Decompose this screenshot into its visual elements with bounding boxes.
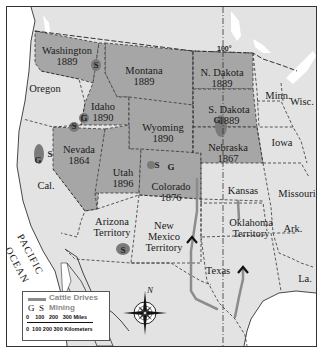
silver-mine-icon: S [120, 245, 125, 255]
map-frame: 100° Washington1889 Oregon Montana1889 I… [6, 6, 317, 347]
map-legend: Cattle Drives G S Mining 0 100 200 300 M… [22, 291, 110, 341]
legend-mining-symbols: G S [28, 303, 44, 313]
state-label-nevada: Nevada1864 [63, 144, 95, 166]
state-label-nebraska: Nebraska1867 [208, 142, 248, 164]
state-label-idaho: Idaho1890 [91, 101, 115, 123]
state-label-new-mexico: NewMexicoTerritory [145, 220, 182, 253]
meridian-label: 100° [217, 45, 231, 52]
state-label-ark: Ark. [284, 223, 303, 234]
state-label-washington: Washington1889 [42, 45, 92, 67]
gold-mine-icon: G [80, 113, 87, 123]
silver-mine-icon: S [47, 149, 52, 159]
state-label-colorado: Colorado1876 [151, 181, 190, 203]
compass-north-label: N [147, 285, 153, 295]
scale-bar [27, 322, 93, 323]
state-label-cal: Cal. [37, 180, 54, 191]
scale-miles: 0 100 200 300 Miles [26, 314, 87, 320]
state-label-la: La. [298, 273, 312, 284]
state-label-arizona: ArizonaTerritory [93, 216, 130, 238]
state-label-wisc: Wisc. [290, 96, 314, 107]
state-label-iowa: Iowa [272, 137, 293, 148]
state-label-minn: Minn. [265, 90, 290, 101]
state-label-texas: Texas [206, 265, 230, 276]
state-label-n-dakota: N. Dakota1889 [200, 67, 243, 89]
gold-mine-icon: G [167, 162, 174, 172]
gold-mine-icon: G [34, 155, 41, 165]
state-label-oklahoma: OklahomaTerritory [229, 217, 273, 239]
state-label-kansas: Kansas [228, 185, 258, 196]
state-label-oregon: Oregon [29, 83, 61, 94]
silver-mine-icon: S [93, 60, 98, 70]
scale-kilometers: 0 100 200 300 Kilometers [26, 326, 93, 332]
state-label-montana: Montana1889 [125, 65, 162, 87]
legend-cattle-drives: Cattle Drives [49, 293, 98, 302]
cattle-drive-swatch [28, 298, 46, 301]
silver-mine-icon: S [71, 121, 76, 131]
legend-mining: Mining [49, 303, 75, 312]
state-label-wyoming: Wyoming1890 [142, 122, 183, 144]
gold-mine-icon: G [213, 115, 220, 125]
silver-mine-icon: S [154, 160, 159, 170]
state-label-missouri: Missouri [278, 188, 315, 199]
state-label-utah: Utah1896 [113, 167, 134, 189]
